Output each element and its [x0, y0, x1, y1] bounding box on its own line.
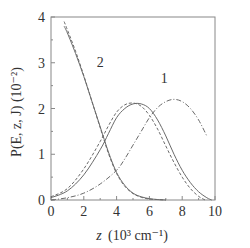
x-axis-label: z (10³ cm⁻¹) — [95, 228, 168, 244]
x-tick-label: 2 — [80, 204, 87, 219]
x-tick-label: 10 — [208, 204, 222, 219]
plot-border — [51, 17, 215, 200]
x-tick-label: 4 — [113, 204, 120, 219]
y-tick-label: 4 — [38, 10, 45, 25]
x-tick-label: 6 — [146, 204, 153, 219]
x-tick-label: 0 — [48, 204, 55, 219]
y-tick-label: 3 — [38, 56, 45, 71]
plot-frame — [51, 17, 215, 200]
y-axis-label: P(E, z, J) (10⁻²) — [9, 67, 25, 157]
y-tick-label: 2 — [38, 102, 45, 117]
chart: 024681001234 12 z (10³ cm⁻¹) P(E, z, J) … — [0, 0, 250, 248]
data-curves — [51, 22, 212, 200]
curve-label-2: 2 — [97, 55, 104, 70]
annotations: 12 — [97, 55, 168, 86]
curve-dashed — [64, 22, 166, 200]
curve-solid — [64, 26, 166, 200]
curve-label-1: 1 — [161, 71, 168, 86]
x-tick-label: 8 — [179, 204, 186, 219]
y-tick-label: 1 — [38, 147, 45, 162]
y-tick-label: 0 — [38, 193, 45, 208]
